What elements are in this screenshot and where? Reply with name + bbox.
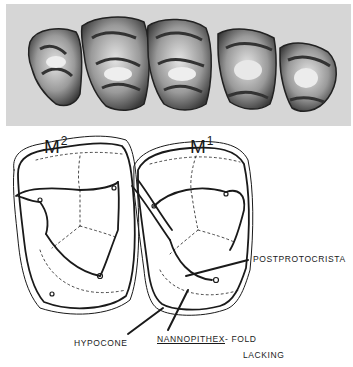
tooth-1	[29, 29, 82, 106]
teeth-photo-illustration	[6, 4, 351, 126]
m2-dotted-lines	[36, 152, 126, 292]
tooth-2	[82, 17, 150, 110]
lacking-label: LACKING	[243, 350, 285, 360]
tooth-3	[148, 19, 212, 110]
tooth-5	[280, 43, 336, 111]
molar-line-drawing: M2 M1 POSTPROTOCRISTA HYPOCONE NANNOPITH…	[0, 130, 353, 367]
teeth-photograph	[6, 4, 351, 126]
m2-tooth-outline	[13, 136, 138, 314]
postprotocrista-label: POSTPROTOCRISTA	[253, 254, 346, 264]
m1-label-base: M	[190, 136, 207, 157]
hypocone-leader-line	[128, 308, 163, 334]
tooth-4	[218, 29, 276, 109]
nannopithex-term: NANNOPITHEX	[157, 334, 225, 344]
m2-label: M2	[44, 134, 69, 158]
molar-outline-diagram	[0, 130, 353, 367]
nannopithex-fold-label: NANNOPITHEX- FOLD	[157, 334, 256, 344]
m1-label: M1	[190, 134, 215, 158]
m2-label-superscript: 2	[61, 134, 69, 148]
fold-suffix: - FOLD	[225, 334, 256, 344]
m1-label-superscript: 1	[207, 134, 215, 148]
postprotocrista-leader-line	[186, 260, 248, 276]
hypocone-label: HYPOCONE	[74, 338, 127, 348]
m2-label-base: M	[44, 136, 61, 157]
